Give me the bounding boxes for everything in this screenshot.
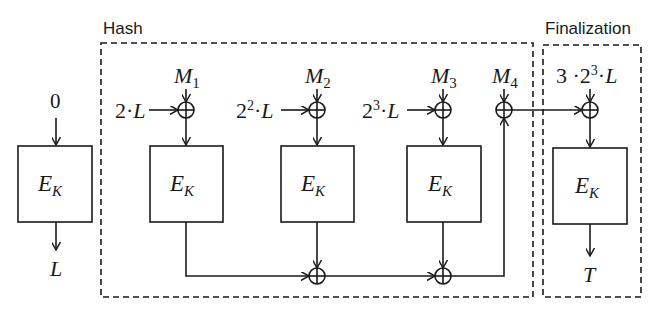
- mask1-label: 2·L: [115, 98, 146, 123]
- m4-label: M4: [491, 63, 518, 91]
- m1-label: M1: [173, 63, 200, 91]
- m2-label: M2: [304, 63, 331, 91]
- cipher-label-2: EK: [300, 171, 326, 199]
- cipher-label-final: EK: [574, 173, 600, 201]
- zero-input-label: 0: [50, 89, 61, 113]
- m3-label: M3: [430, 63, 457, 91]
- tag-output-label: T: [583, 262, 597, 287]
- cipher-label-1: EK: [169, 171, 195, 199]
- l-output-label: L: [49, 256, 62, 281]
- mac-diagram: Hash Finalization 0 EK L M1 M2 M3 M4 2·L…: [0, 0, 654, 310]
- sum2-to-xor4-arrow: [451, 118, 504, 276]
- final-mask-label: 3 ·23·L: [556, 63, 617, 88]
- mask3-label: 23·L: [362, 98, 400, 123]
- mask2-label: 22·L: [236, 98, 274, 123]
- finalization-group-label: Finalization: [545, 19, 631, 38]
- cipher-label-3: EK: [427, 171, 453, 199]
- precompute-cipher-label: EK: [37, 171, 63, 199]
- hash-group-label: Hash: [103, 19, 143, 38]
- cipher1-to-xor-arrow: [186, 222, 309, 276]
